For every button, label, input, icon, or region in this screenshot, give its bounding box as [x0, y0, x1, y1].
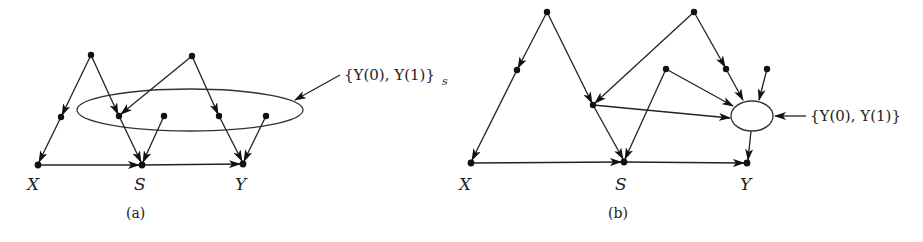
caption-b: (b)	[608, 205, 628, 221]
edge	[759, 69, 767, 100]
set-label: {Y(0), Y(1)}	[810, 107, 901, 125]
set-label: {Y(0), Y(1)}	[344, 66, 435, 84]
edge	[625, 69, 666, 159]
potential-outcomes-ellipse	[77, 89, 303, 131]
node-y	[744, 160, 751, 167]
node	[189, 53, 195, 59]
node-x	[35, 162, 42, 169]
edge	[593, 105, 730, 118]
edge	[219, 116, 242, 161]
edge	[694, 12, 725, 67]
edge	[518, 12, 547, 68]
node	[544, 9, 550, 15]
node	[590, 102, 596, 108]
node-y	[240, 161, 247, 168]
edge-s-to-y	[142, 164, 240, 165]
causal-diagrams: X S Y {Y(0), Y(1)} s (a)	[0, 0, 923, 242]
potential-outcomes-node	[731, 101, 773, 131]
edge	[595, 12, 694, 103]
edge	[62, 55, 91, 115]
label-y: Y	[740, 174, 753, 194]
edge-x-to-s	[471, 162, 621, 163]
edge	[143, 116, 164, 162]
edge	[593, 105, 623, 159]
edge	[666, 69, 733, 106]
node	[161, 113, 167, 119]
edge-s-to-y	[624, 162, 744, 163]
edge	[91, 55, 118, 114]
label-s: S	[134, 174, 146, 194]
edge	[121, 56, 192, 114]
node	[263, 113, 269, 119]
label-x: X	[25, 174, 40, 194]
edge	[39, 117, 61, 162]
edge	[748, 131, 751, 160]
label-s: S	[615, 174, 627, 194]
node	[663, 66, 669, 72]
node	[88, 52, 94, 58]
edge	[119, 116, 141, 162]
label-pointer-arrow	[295, 75, 340, 100]
node	[514, 67, 520, 73]
panel-a: X S Y {Y(0), Y(1)} s (a)	[25, 52, 448, 221]
edge	[244, 116, 266, 161]
node-s	[621, 159, 628, 166]
set-label-subscript: s	[442, 75, 448, 88]
panel-b: X S Y {Y(0), Y(1)} (b)	[457, 9, 901, 221]
edge	[472, 70, 517, 160]
node	[691, 9, 697, 15]
node	[116, 113, 122, 119]
label-y: Y	[235, 174, 248, 194]
label-x: X	[457, 174, 472, 194]
caption-a: (a)	[126, 205, 145, 221]
node-s	[139, 162, 146, 169]
edge	[192, 56, 218, 114]
node	[216, 113, 222, 119]
node-x	[468, 160, 475, 167]
edge	[547, 12, 592, 103]
node	[58, 114, 64, 120]
edge	[726, 69, 743, 100]
node	[723, 66, 729, 72]
node	[764, 66, 770, 72]
